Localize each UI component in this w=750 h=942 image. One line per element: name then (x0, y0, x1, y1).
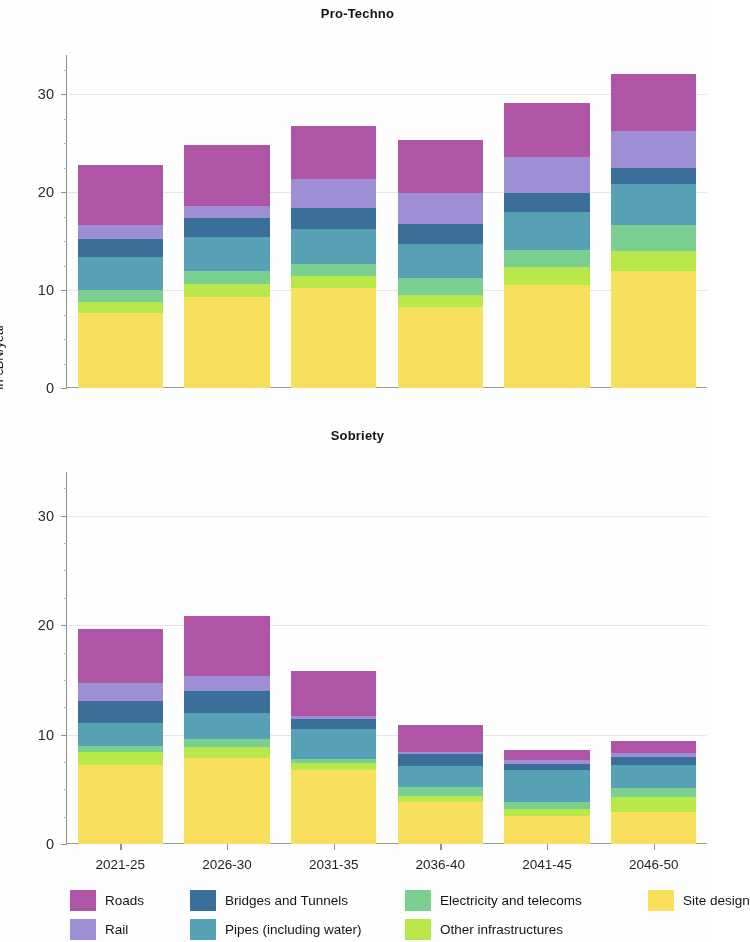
y-axis-tick-label: 10 (14, 282, 54, 298)
bar-segment (504, 285, 589, 388)
x-axis-tick (547, 844, 548, 850)
bar-segment (398, 278, 483, 295)
legend-label: Roads (105, 893, 144, 908)
panel-title-sobriety: Sobriety (0, 428, 715, 443)
bar-segment (611, 251, 696, 272)
bar-segment (611, 788, 696, 797)
bar-segment (504, 250, 589, 267)
legend-label: Electricity and telecoms (440, 893, 582, 908)
bar-2036-40[interactable] (398, 140, 483, 388)
bar-segment (291, 770, 376, 844)
bar-segment (504, 750, 589, 760)
bar-2021-25[interactable] (78, 628, 163, 844)
bar-segment (78, 239, 163, 258)
bar-segment (611, 757, 696, 765)
bar-segment (78, 257, 163, 290)
bar-segment (398, 307, 483, 388)
bar-segment (78, 225, 163, 239)
y-axis-minor-tick (64, 680, 68, 681)
y-axis-tick (61, 388, 67, 389)
x-axis-tick-label-2026-30: 2026-30 (202, 857, 252, 872)
bar-2046-50[interactable] (611, 74, 696, 388)
bar-segment (611, 168, 696, 185)
bar-2036-40[interactable] (398, 725, 483, 844)
legend-item-roads[interactable]: Roads (70, 890, 144, 911)
chart-panel-pro-techno: Pro-Techno 0102030 (0, 0, 715, 430)
bar-segment (78, 313, 163, 388)
legend-color-swatch (405, 890, 431, 911)
y-axis-minor-tick (64, 598, 68, 599)
x-axis-tick (227, 844, 228, 850)
bar-segment (291, 719, 376, 729)
bar-segment (291, 179, 376, 208)
legend-color-swatch (70, 890, 96, 911)
bar-segment (184, 206, 269, 218)
bar-segment (398, 787, 483, 797)
gridline (67, 735, 707, 736)
bar-2041-45[interactable] (504, 103, 589, 388)
bar-segment (184, 739, 269, 747)
bar-segment (611, 797, 696, 812)
bar-segment (291, 288, 376, 388)
legend-label: Other infrastructures (440, 922, 563, 937)
bar-segment (184, 691, 269, 713)
x-axis-tick (120, 844, 121, 850)
bar-2031-35[interactable] (291, 126, 376, 388)
bar-segment (184, 616, 269, 675)
y-axis-tick (61, 625, 67, 626)
y-axis-tick-label: 30 (14, 508, 54, 524)
y-axis-tick (61, 844, 67, 845)
bar-segment (78, 701, 163, 723)
bar-segment (291, 208, 376, 229)
y-axis-tick (61, 192, 67, 193)
y-axis-tick-label: 30 (14, 86, 54, 102)
x-axis-tick (654, 844, 655, 850)
bar-2046-50[interactable] (611, 741, 696, 844)
bar-segment (291, 729, 376, 759)
bar-segment (504, 816, 589, 844)
bar-2031-35[interactable] (291, 671, 376, 844)
y-axis-minor-tick (64, 488, 68, 489)
bar-segment (504, 157, 589, 193)
bar-segment (291, 276, 376, 288)
x-axis-tick-label-2041-45: 2041-45 (522, 857, 572, 872)
y-axis-tick (61, 516, 67, 517)
bar-segment (78, 723, 163, 746)
legend-item-rail[interactable]: Rail (70, 919, 128, 940)
bar-segment (611, 131, 696, 167)
y-axis-tick (61, 290, 67, 291)
y-axis-minor-tick (64, 339, 68, 340)
bar-2026-30[interactable] (184, 616, 269, 844)
legend-item-other-infrastructures[interactable]: Other infrastructures (405, 919, 563, 940)
bar-segment (611, 271, 696, 388)
bar-segment (78, 302, 163, 313)
y-axis-minor-tick (64, 143, 68, 144)
legend-color-swatch (190, 919, 216, 940)
y-axis-minor-tick (64, 70, 68, 71)
y-axis-tick (61, 94, 67, 95)
bar-segment (398, 244, 483, 278)
legend-item-bridges-and-tunnels[interactable]: Bridges and Tunnels (190, 890, 348, 911)
y-axis-tick-label: 10 (14, 727, 54, 743)
legend-item-site-design[interactable]: Site design (648, 890, 750, 911)
legend-color-swatch (405, 919, 431, 940)
bar-2041-45[interactable] (504, 750, 589, 844)
chart-legend: RoadsRailBridges and TunnelsPipes (inclu… (0, 884, 715, 942)
bar-segment (184, 676, 269, 691)
bar-segment (504, 770, 589, 803)
bar-2026-30[interactable] (184, 145, 269, 388)
gridline (67, 516, 707, 517)
legend-item-pipes-including-water[interactable]: Pipes (including water) (190, 919, 362, 940)
legend-item-electricity-and-telecoms[interactable]: Electricity and telecoms (405, 890, 582, 911)
bar-segment (184, 145, 269, 206)
bar-segment (398, 802, 483, 844)
bar-segment (291, 126, 376, 179)
bar-segment (78, 683, 163, 701)
bar-2021-25[interactable] (78, 165, 163, 388)
y-axis-minor-tick (64, 364, 68, 365)
bar-segment (611, 741, 696, 753)
y-axis-minor-tick (64, 653, 68, 654)
bar-segment (78, 629, 163, 684)
bar-segment (398, 754, 483, 766)
bar-segment (611, 184, 696, 225)
